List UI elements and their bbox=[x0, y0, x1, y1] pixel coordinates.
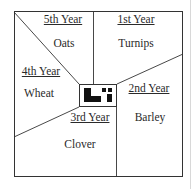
crop-rotation-diagram: 5th Year Oats 1st Year Turnips 4th Year … bbox=[0, 0, 195, 189]
field-1-crop-label: Turnips bbox=[108, 37, 164, 49]
field-3-year-label: 3rd Year bbox=[66, 111, 114, 123]
field-4-crop-label: Wheat bbox=[18, 87, 60, 99]
page-edge bbox=[190, 0, 191, 189]
field-2-crop-label: Barley bbox=[128, 111, 172, 123]
field-5-crop-label: Oats bbox=[42, 37, 86, 49]
field-4-year-label: 4th Year bbox=[18, 65, 64, 77]
field-2-year-label: 2nd Year bbox=[124, 82, 174, 94]
field-1-year-label: 1st Year bbox=[112, 13, 160, 25]
field-3-crop-label: Clover bbox=[56, 138, 104, 150]
divider-turnips-barley bbox=[117, 54, 183, 84]
field-5-year-label: 5th Year bbox=[38, 13, 88, 25]
